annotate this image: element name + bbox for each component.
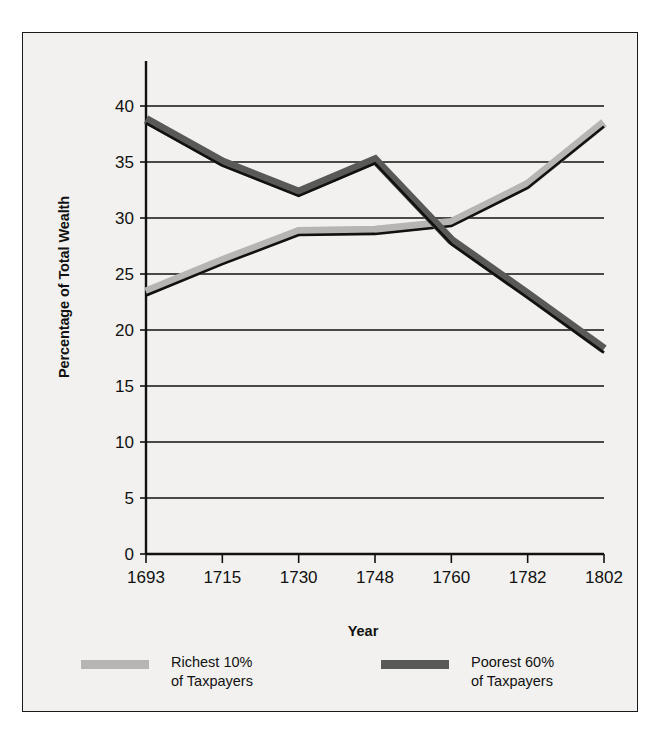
x-tick-label-1760: 1760	[432, 568, 470, 587]
y-tick-label-20: 20	[115, 321, 134, 340]
legend-label-poorest: Poorest 60% of Taxpayers	[471, 653, 554, 691]
y-tick-label-30: 30	[115, 209, 134, 228]
y-axis-title: Percentage of Total Wealth	[56, 182, 72, 392]
legend-item-richest: Richest 10% of Taxpayers	[81, 653, 381, 691]
x-axis-title: Year	[123, 623, 603, 639]
x-tick-label-1693: 1693	[127, 568, 165, 587]
y-tick-label-5: 5	[125, 489, 134, 508]
legend-label-richest: Richest 10% of Taxpayers	[171, 653, 253, 691]
legend-label-richest-line2: of Taxpayers	[171, 673, 253, 689]
x-tick-label-1715: 1715	[203, 568, 241, 587]
legend-item-poorest: Poorest 60% of Taxpayers	[381, 653, 554, 691]
legend-label-poorest-line2: of Taxpayers	[471, 673, 553, 689]
legend-swatch-poorest	[381, 660, 449, 669]
legend-label-poorest-line1: Poorest 60%	[471, 654, 554, 670]
series-line-0	[146, 126, 604, 295]
x-tick-label-1802: 1802	[585, 568, 623, 587]
legend-label-richest-line1: Richest 10%	[171, 654, 252, 670]
x-tick-label-1748: 1748	[356, 568, 394, 587]
legend-swatch-richest	[81, 660, 149, 669]
y-tick-label-0: 0	[125, 545, 134, 564]
x-tick-label-1730: 1730	[280, 568, 318, 587]
y-tick-label-35: 35	[115, 153, 134, 172]
y-tick-label-40: 40	[115, 97, 134, 116]
y-tick-label-10: 10	[115, 433, 134, 452]
plot-area: 0510152025303540169317151730174817601782…	[23, 33, 638, 712]
chart-figure: 0510152025303540169317151730174817601782…	[22, 32, 638, 712]
y-tick-label-15: 15	[115, 377, 134, 396]
x-tick-label-1782: 1782	[509, 568, 547, 587]
y-tick-label-25: 25	[115, 265, 134, 284]
line-chart: 0510152025303540169317151730174817601782…	[23, 33, 638, 712]
chart-legend: Richest 10% of Taxpayers Poorest 60% of …	[81, 653, 601, 691]
